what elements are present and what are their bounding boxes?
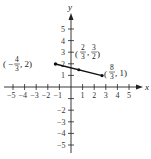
svg-text:−4: −4 bbox=[57, 129, 66, 138]
x-axis-label: x bbox=[144, 82, 149, 92]
svg-text:2: 2 bbox=[92, 52, 96, 61]
svg-text:−3: −3 bbox=[57, 118, 66, 127]
svg-text:(: ( bbox=[3, 59, 6, 69]
svg-text:5: 5 bbox=[127, 91, 131, 100]
svg-text:,: , bbox=[87, 47, 89, 57]
svg-text:−: − bbox=[8, 59, 13, 69]
svg-text:1: 1 bbox=[61, 71, 65, 80]
svg-text:−4: −4 bbox=[19, 91, 28, 100]
svg-text:, 2): , 2) bbox=[20, 59, 32, 69]
svg-text:−5: −5 bbox=[7, 91, 16, 100]
y-axis-arrow-icon bbox=[69, 13, 74, 20]
svg-text:, 1): , 1) bbox=[115, 68, 127, 78]
svg-text:1: 1 bbox=[81, 91, 85, 100]
svg-text:3: 3 bbox=[104, 91, 108, 100]
label-midpoint: ( 2 3 , 3 2 ) bbox=[75, 43, 100, 61]
svg-text:3: 3 bbox=[110, 72, 114, 81]
svg-text:5: 5 bbox=[61, 25, 65, 34]
svg-text:4: 4 bbox=[115, 91, 119, 100]
svg-text:3: 3 bbox=[61, 48, 65, 57]
svg-text:2: 2 bbox=[61, 60, 65, 69]
svg-text:4: 4 bbox=[61, 37, 65, 46]
svg-text:8: 8 bbox=[110, 63, 114, 72]
svg-text:3: 3 bbox=[15, 64, 19, 73]
svg-text:−2: −2 bbox=[57, 106, 66, 115]
svg-text:−3: −3 bbox=[30, 91, 39, 100]
svg-text:3: 3 bbox=[92, 43, 96, 52]
svg-text:(: ( bbox=[75, 49, 78, 59]
svg-text:2: 2 bbox=[81, 43, 85, 52]
svg-text:−1: −1 bbox=[53, 91, 62, 100]
label-right-endpoint: ( 8 3 , 1) bbox=[104, 63, 127, 81]
label-left-endpoint: ( − 4 3 , 2) bbox=[3, 55, 32, 73]
svg-text:4: 4 bbox=[15, 55, 19, 64]
endpoint-left bbox=[54, 62, 57, 65]
midpoint bbox=[77, 68, 80, 71]
x-axis-arrow-icon bbox=[136, 85, 143, 90]
svg-text:): ) bbox=[97, 49, 100, 59]
svg-text:3: 3 bbox=[81, 52, 85, 61]
svg-text:2: 2 bbox=[92, 91, 96, 100]
coordinate-plane: x y −5 −4 −3 −2 −1 1 2 3 4 5 bbox=[0, 0, 151, 159]
svg-text:−2: −2 bbox=[42, 91, 51, 100]
y-tick-labels: 5 4 3 2 1 −2 −3 −4 −5 bbox=[57, 25, 66, 150]
svg-text:−5: −5 bbox=[57, 141, 66, 150]
svg-text:(: ( bbox=[104, 69, 107, 79]
y-axis-label: y bbox=[67, 2, 72, 12]
